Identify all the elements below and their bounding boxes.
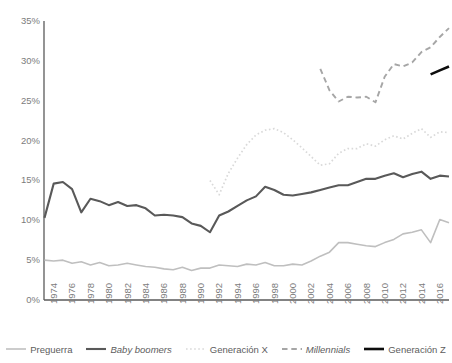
- x-axis-tick-label: 1998: [270, 283, 280, 304]
- legend-swatch-generación-z-icon: [364, 345, 384, 353]
- x-axis-tick-label: 2006: [343, 283, 353, 304]
- legend-item-generación-z[interactable]: Generación Z: [364, 344, 446, 355]
- x-axis-tick-label: 1978: [86, 283, 96, 304]
- x-axis-tick-label: 2002: [306, 283, 316, 304]
- x-axis-tick-label: 1976: [67, 283, 77, 304]
- x-axis-tick-label: 2004: [325, 283, 335, 304]
- x-axis-tick-label: 1982: [123, 283, 133, 304]
- x-axis-tick-label: 1990: [196, 283, 206, 304]
- legend-item-baby-boomers[interactable]: Baby boomers: [86, 344, 171, 355]
- x-axis-tick-label: 2014: [417, 283, 427, 304]
- x-axis-tick-label: 1980: [104, 283, 114, 304]
- x-axis-tick-labels: 1974197619781980198219841986198819901992…: [0, 0, 452, 363]
- legend-label: Preguerra: [30, 344, 72, 355]
- legend-swatch-generación-x-icon: [186, 345, 206, 353]
- x-axis-tick-label: 1986: [159, 283, 169, 304]
- legend-item-preguerra[interactable]: Preguerra: [6, 344, 72, 355]
- chart-container: 35%30%25%20%15%10%5%0% 19741976197819801…: [0, 0, 452, 363]
- x-axis-tick-label: 1984: [141, 283, 151, 304]
- legend-item-millennials[interactable]: Millennials: [282, 344, 350, 355]
- legend-label: Millennials: [306, 344, 350, 355]
- x-axis-tick-label: 2012: [398, 283, 408, 304]
- legend-swatch-baby-boomers-icon: [86, 345, 106, 353]
- x-axis-tick-label: 2016: [435, 283, 445, 304]
- x-axis-tick-label: 1988: [178, 283, 188, 304]
- legend-swatch-millennials-icon: [282, 345, 302, 353]
- x-axis-tick-label: 2008: [362, 283, 372, 304]
- x-axis-tick-label: 1994: [233, 283, 243, 304]
- legend-label: Generación Z: [388, 344, 446, 355]
- legend-label: Generación X: [210, 344, 268, 355]
- x-axis-tick-label: 1996: [251, 283, 261, 304]
- chart-legend: PreguerraBaby boomersGeneración XMillenn…: [0, 338, 452, 360]
- legend-label: Baby boomers: [110, 344, 171, 355]
- x-axis-tick-label: 1974: [49, 283, 59, 304]
- x-axis-tick-label: 2000: [288, 283, 298, 304]
- legend-swatch-preguerra-icon: [6, 345, 26, 353]
- x-axis-tick-label: 2010: [380, 283, 390, 304]
- x-axis-tick-label: 1992: [214, 283, 224, 304]
- legend-item-generación-x[interactable]: Generación X: [186, 344, 268, 355]
